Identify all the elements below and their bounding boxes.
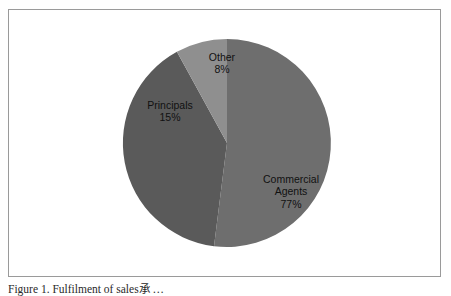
figure-frame: Other 8% Principals 15% Commercial Agent…: [8, 9, 441, 277]
pie-chart-svg: [9, 10, 442, 278]
figure-caption: Figure 1. Fulfilment of sales承 …: [8, 280, 448, 296]
pie-slice-commercial-agents[interactable]: [214, 39, 331, 247]
pie-chart: Other 8% Principals 15% Commercial Agent…: [9, 10, 442, 278]
